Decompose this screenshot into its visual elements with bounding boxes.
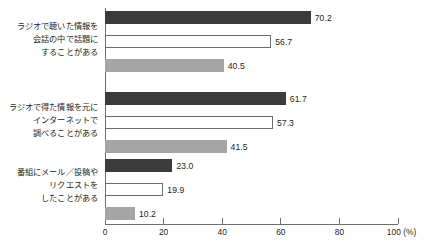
x-tick-20: [163, 218, 164, 224]
bar-value-label: 61.7: [290, 94, 307, 104]
category-label-3: 番組にメール／投稿や リクエストを したことがある: [0, 166, 98, 206]
x-tick-100: [398, 218, 399, 224]
bar-value-label: 56.7: [275, 37, 292, 47]
x-tick-label-100: 100 (%): [387, 227, 416, 237]
category-label-1: ラジオで聴いた情報を 会話の中で話題に することがある: [0, 20, 98, 60]
x-tick-60: [280, 218, 281, 224]
x-tick-label-0: 0: [103, 227, 108, 237]
bar: [105, 116, 273, 129]
x-tick-label-40: 40: [218, 227, 227, 237]
x-tick-label-80: 80: [335, 227, 344, 237]
bar-value-label: 10.2: [139, 209, 156, 219]
bar-value-label: 40.5: [228, 61, 245, 71]
bar-value-label: 57.3: [277, 118, 294, 128]
bar: [105, 35, 271, 48]
category-label-2: ラジオで得た情報を元に インターネットで 調べることがある: [0, 101, 98, 141]
x-tick-40: [222, 218, 223, 224]
bar: [105, 140, 227, 153]
bar: [105, 11, 311, 24]
bar-value-label: 41.5: [231, 142, 248, 152]
horizontal-bar-chart: ラジオで聴いた情報を 会話の中で話題に することがある ラジオで得た情報を元に …: [0, 0, 435, 243]
x-tick-label-20: 20: [159, 227, 168, 237]
bar: [105, 183, 163, 196]
bar: [105, 92, 286, 105]
bar: [105, 59, 224, 72]
plot-area: 020406080100 (%) 70.256.740.561.757.341.…: [105, 0, 398, 224]
x-tick-80: [339, 218, 340, 224]
bar-value-label: 70.2: [315, 13, 332, 23]
bar: [105, 159, 172, 172]
x-tick-label-60: 60: [276, 227, 285, 237]
bar-value-label: 19.9: [167, 185, 184, 195]
bar-value-label: 23.0: [176, 161, 193, 171]
x-axis-line: [105, 224, 399, 225]
bar: [105, 207, 135, 220]
